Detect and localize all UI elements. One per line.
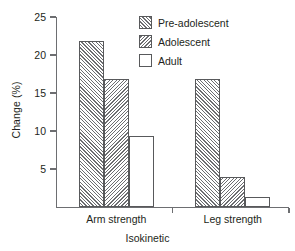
legend-swatch-pre-adolescent	[139, 16, 152, 29]
chart-legend: Pre-adolescent Adolescent Adult	[139, 14, 229, 71]
bar-adult-leg-strength	[245, 197, 270, 207]
y-tick	[50, 130, 56, 131]
y-tick	[50, 168, 56, 169]
legend-label-pre-adolescent: Pre-adolescent	[158, 17, 229, 29]
y-tick-label: 20	[0, 49, 46, 61]
legend-label-adult: Adult	[158, 55, 182, 67]
x-group-label: Arm strength	[56, 213, 176, 225]
y-axis-line	[56, 17, 57, 208]
bar-adolescent-leg-strength	[220, 177, 245, 207]
y-tick-label: 25	[0, 11, 46, 23]
legend-swatch-adolescent	[139, 35, 152, 48]
bar-pre-adolescent-leg-strength	[195, 79, 220, 207]
bar-adult-arm-strength	[129, 136, 154, 207]
legend-item-adult: Adult	[139, 52, 229, 69]
x-axis-title: Isokinetic	[0, 232, 295, 244]
x-group-label: Leg strength	[173, 213, 293, 225]
y-tick	[50, 16, 56, 17]
y-axis-title: Change (%)	[10, 50, 22, 170]
bar-chart: Change (%) 510152025 Arm strengthLeg str…	[0, 0, 295, 251]
y-tick	[50, 54, 56, 55]
legend-swatch-adult	[139, 54, 152, 67]
y-tick	[50, 92, 56, 93]
bar-pre-adolescent-arm-strength	[79, 41, 104, 207]
legend-label-adolescent: Adolescent	[158, 36, 210, 48]
bar-adolescent-arm-strength	[104, 79, 129, 207]
y-tick-label: 10	[0, 125, 46, 137]
legend-item-adolescent: Adolescent	[139, 33, 229, 50]
y-tick-label: 5	[0, 163, 46, 175]
y-tick-label: 15	[0, 87, 46, 99]
legend-item-pre-adolescent: Pre-adolescent	[139, 14, 229, 31]
